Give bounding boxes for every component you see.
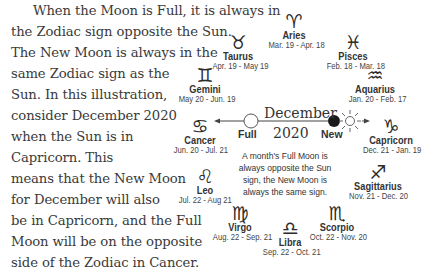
full-moon-label: Full bbox=[238, 128, 257, 140]
leo-icon: ♌ bbox=[174, 167, 236, 185]
sign-leo: ♌ Leo Jul. 22 - Aug 21 bbox=[174, 167, 236, 205]
libra-icon: ♎ bbox=[258, 219, 322, 237]
paragraph-line: when the Sun is in bbox=[11, 129, 133, 144]
diagram-caption: A month's Full Moon is always opposite t… bbox=[231, 150, 340, 198]
sign-aquarius: ♒ Aquarius Jan. 20 - Feb. 17 bbox=[344, 66, 406, 104]
paragraph-line: Sun. In this illustration, bbox=[11, 87, 167, 102]
full-moon-icon bbox=[244, 114, 258, 128]
paragraph-line: means that the New Moon bbox=[11, 171, 186, 186]
new-moon-label: New bbox=[321, 128, 343, 140]
sign-dates: Jan. 20 - Feb. 17 bbox=[349, 94, 402, 104]
sign-libra: ♎ Libra Sep. 22 - Oct. 21 bbox=[258, 219, 322, 257]
paragraph-line: same Zodiac sign as the bbox=[11, 66, 170, 81]
paragraph-line: Moon will be on the opposite bbox=[11, 234, 202, 249]
paragraph-line: side of the Zodiac in Cancer. bbox=[11, 255, 199, 270]
arrow-right-icon bbox=[364, 119, 370, 124]
sign-dates: Dec. 21 - Jan. 19 bbox=[363, 145, 419, 155]
sign-gemini: ♊ Gemini May 20 - Jun. 19 bbox=[174, 66, 236, 104]
paragraph-line: consider December 2020 bbox=[11, 108, 177, 123]
taurus-icon: ♉ bbox=[208, 33, 268, 51]
sign-name: Capricorn bbox=[362, 135, 420, 145]
aries-icon: ♈ bbox=[264, 12, 324, 30]
pisces-icon: ♓ bbox=[322, 33, 384, 51]
sign-dates: Jun. 20 - Jul. 21 bbox=[174, 145, 227, 155]
aquarius-icon: ♒ bbox=[344, 66, 406, 84]
sign-name: Gemini bbox=[178, 84, 233, 94]
sign-name: Libra bbox=[262, 237, 318, 247]
sign-name: Sagittarius bbox=[348, 181, 408, 191]
sign-name: Pisces bbox=[326, 51, 381, 61]
sign-aries: ♈ Aries Mar. 19 - Apr. 18 bbox=[264, 12, 324, 50]
sign-dates: Mar. 19 - Apr. 18 bbox=[269, 40, 320, 50]
arrow-left-icon bbox=[214, 119, 220, 124]
month-label: December bbox=[264, 105, 337, 121]
paragraph-line: The New Moon is always in the bbox=[11, 45, 218, 60]
sign-name: Leo bbox=[178, 185, 233, 195]
paragraph-line: When the Moon is Full, it is always in bbox=[33, 3, 280, 18]
sign-name: Aries bbox=[268, 30, 321, 40]
paragraph-line: for December will also bbox=[11, 192, 160, 207]
year-label: 2020 bbox=[273, 125, 309, 141]
sign-sagittarius: ♐ Sagittarius Nov. 21 - Dec. 20 bbox=[344, 163, 412, 201]
sagittarius-icon: ♐ bbox=[344, 163, 412, 181]
paragraph-line: the Zodiac sign opposite the Sun. bbox=[11, 24, 232, 39]
paragraph-line: Capricorn. This bbox=[11, 150, 113, 165]
gemini-icon: ♊ bbox=[174, 66, 236, 84]
sign-dates: May 20 - Jun. 19 bbox=[179, 94, 232, 104]
sign-name: Aquarius bbox=[348, 84, 403, 94]
sign-name: Taurus bbox=[212, 51, 265, 61]
paragraph-line: be in Capricorn, and the Full bbox=[11, 213, 202, 228]
sign-dates: Nov. 21 - Dec. 20 bbox=[349, 191, 407, 201]
sign-dates: Sep. 22 - Oct. 21 bbox=[263, 247, 317, 257]
